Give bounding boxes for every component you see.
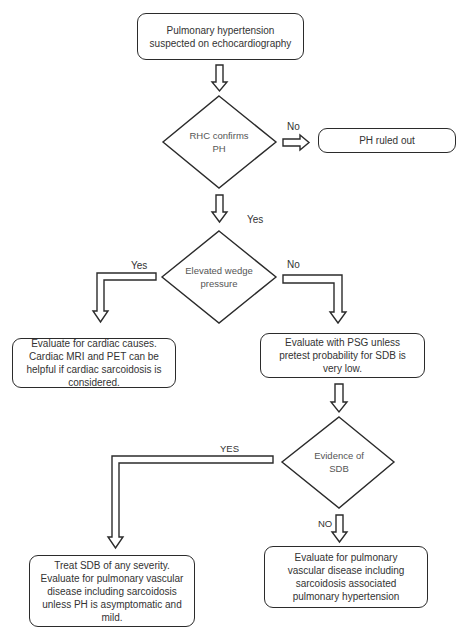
arrow-down-icon	[212, 195, 227, 222]
edge-label-sdb-no: NO	[318, 518, 332, 530]
start-text: Pulmonary hypertension suspected on echo…	[144, 24, 297, 50]
elbow-arrow-right-icon	[283, 275, 346, 323]
edge-label-sdb-yes: YES	[220, 443, 239, 455]
edge-label-wedge-no: No	[287, 259, 300, 271]
psg-eval-text: Evaluate with PSG unless pretest probabi…	[273, 336, 412, 375]
treat-sdb-text: Treat SDB of any severity. Evaluate for …	[40, 559, 184, 624]
cardiac-eval-box: Evaluate for cardiac causes. Cardiac MRI…	[12, 338, 176, 388]
arrow-right-icon	[283, 135, 309, 150]
psg-eval-box: Evaluate with PSG unless pretest probabi…	[260, 333, 425, 378]
start-box: Pulmonary hypertension suspected on echo…	[137, 13, 304, 60]
ph-ruled-out-box: PH ruled out	[318, 128, 456, 153]
arrow-down-icon	[212, 65, 227, 91]
pulm-vascular-eval-text: Evaluate for pulmonary vascular disease …	[275, 551, 417, 603]
edge-label-rhc-yes: Yes	[247, 214, 263, 226]
cardiac-eval-text: Evaluate for cardiac causes. Cardiac MRI…	[21, 337, 167, 389]
arrow-down-icon	[331, 384, 347, 412]
edge-label-rhc-no: No	[287, 121, 300, 133]
edge-label-wedge-yes: Yes	[131, 260, 147, 272]
treat-sdb-box: Treat SDB of any severity. Evaluate for …	[29, 555, 195, 627]
connector-layer	[0, 0, 463, 633]
ph-ruled-out-text: PH ruled out	[359, 134, 415, 147]
elbow-arrow-left-icon	[108, 456, 273, 548]
arrow-down-icon	[332, 515, 347, 542]
decision-wedge-text: Elevated wedge pressure	[182, 253, 256, 301]
pulm-vascular-eval-box: Evaluate for pulmonary vascular disease …	[264, 546, 428, 608]
decision-sdb-text: Evidence of SDB	[305, 445, 373, 479]
decision-rhc-text: RHC confirms PH	[189, 118, 249, 166]
elbow-arrow-left-icon	[93, 273, 156, 322]
flowchart-diagram: Pulmonary hypertension suspected on echo…	[0, 0, 463, 633]
